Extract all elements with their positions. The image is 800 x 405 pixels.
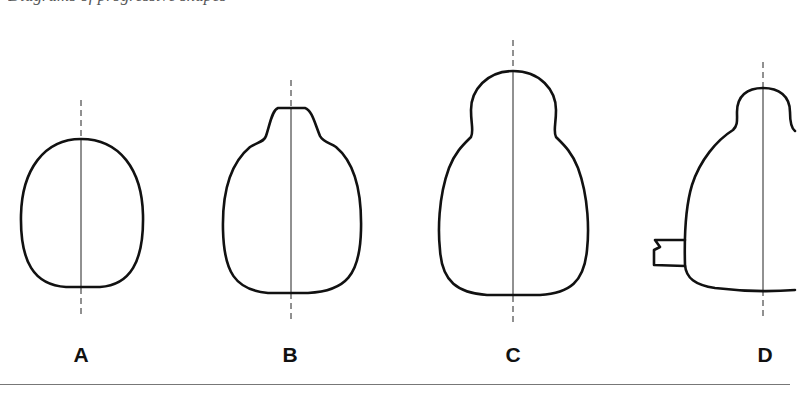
label-d: D	[745, 343, 785, 367]
shape-b	[223, 80, 361, 322]
shape-d	[654, 62, 795, 320]
label-a: A	[61, 343, 101, 367]
bottom-rule	[0, 384, 790, 385]
shape-c	[439, 40, 588, 325]
shape-diagram	[0, 0, 800, 405]
shape-a	[21, 100, 143, 318]
label-b: B	[270, 343, 310, 367]
label-c: C	[493, 343, 533, 367]
